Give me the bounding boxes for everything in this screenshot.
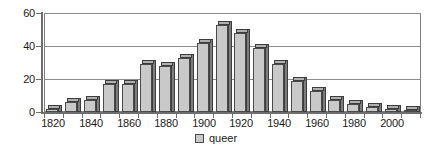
x-tick-label-1980: 1980 xyxy=(334,118,374,129)
bar-1840 xyxy=(84,100,96,112)
bar-1920 xyxy=(234,33,246,112)
bar-1890 xyxy=(178,58,190,112)
x-tick-label-2000: 2000 xyxy=(372,118,412,129)
plot-area xyxy=(44,13,421,112)
gridline-40 xyxy=(44,46,420,47)
x-tick-label-1940: 1940 xyxy=(259,118,299,129)
gridline-20 xyxy=(44,79,420,80)
bar-side-1940 xyxy=(284,60,288,112)
y-tick-label-20: 20 xyxy=(5,74,35,85)
x-tick-label-1820: 1820 xyxy=(33,118,73,129)
bar-1850 xyxy=(103,84,115,112)
bar-side-1890 xyxy=(190,54,194,112)
bar-side-1930 xyxy=(265,44,269,112)
x-tick-label-1960: 1960 xyxy=(297,118,337,129)
x-tick-label-1840: 1840 xyxy=(71,118,111,129)
y-axis-line xyxy=(41,12,43,113)
bar-1950 xyxy=(291,81,303,112)
bar-1980 xyxy=(347,104,359,112)
x-tick-label-1880: 1880 xyxy=(146,118,186,129)
legend: queer xyxy=(0,133,432,144)
bar-side-1860 xyxy=(134,80,138,112)
x-tick-label-1900: 1900 xyxy=(184,118,224,129)
bar-1900 xyxy=(197,43,209,112)
y-tick-label-40: 40 xyxy=(5,41,35,52)
bar-1880 xyxy=(159,66,171,112)
bar-1940 xyxy=(272,64,284,112)
bar-1970 xyxy=(328,100,340,112)
bar-side-1870 xyxy=(152,60,156,112)
bar-1910 xyxy=(216,25,228,112)
bar-1960 xyxy=(310,91,322,112)
bar-1870 xyxy=(140,64,152,112)
bar-side-1950 xyxy=(303,77,307,112)
chart-container: 0204060 18201840186018801900192019401960… xyxy=(0,0,432,150)
bar-1830 xyxy=(65,102,77,112)
bar-1930 xyxy=(253,48,265,112)
legend-label-queer: queer xyxy=(209,133,237,144)
y-tick-label-60: 60 xyxy=(5,8,35,19)
bar-side-1910 xyxy=(228,21,232,112)
bar-side-1900 xyxy=(209,39,213,112)
bar-side-1850 xyxy=(115,80,119,112)
y-tick-label-0: 0 xyxy=(5,107,35,118)
legend-swatch-queer xyxy=(195,134,204,143)
gridline-60 xyxy=(44,13,420,14)
bar-side-1920 xyxy=(246,29,250,112)
bar-1860 xyxy=(122,84,134,112)
x-tick-20 xyxy=(420,114,421,118)
x-tick-label-1860: 1860 xyxy=(109,118,149,129)
bar-side-1880 xyxy=(171,62,175,112)
x-tick-label-1920: 1920 xyxy=(221,118,261,129)
